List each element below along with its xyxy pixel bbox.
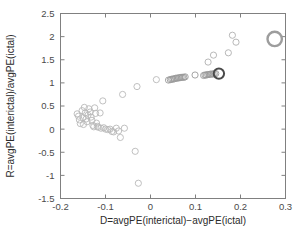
axes-frame <box>61 14 286 199</box>
scatter-plot-figure: -0.2-0.100.10.20.3 -1.5-1-0.500.511.522.… <box>0 0 307 240</box>
data-point <box>153 77 159 83</box>
data-point <box>229 32 235 38</box>
data-point <box>132 148 138 154</box>
data-point <box>120 91 126 97</box>
data-point <box>97 110 103 116</box>
x-tick-label: 0.1 <box>189 201 202 212</box>
axes-box <box>61 14 286 199</box>
x-tick-label: 0 <box>148 201 153 212</box>
series-transition-chain <box>165 71 218 84</box>
data-points-layer <box>74 32 282 187</box>
data-point <box>225 50 231 56</box>
plot-canvas: -0.2-0.100.10.20.3 -1.5-1-0.500.511.522.… <box>0 0 307 240</box>
data-point <box>268 32 282 46</box>
x-tick-label: -0.2 <box>52 201 68 212</box>
series-upper-right-outliers <box>205 32 239 65</box>
x-tick-label: 0.2 <box>234 201 247 212</box>
y-tick-label: 2 <box>49 31 54 42</box>
x-tick-label: -0.1 <box>97 201 113 212</box>
data-point <box>100 98 106 104</box>
y-axis-ticks: -1.5-1-0.500.511.522.5 <box>38 8 285 204</box>
data-point <box>233 39 239 45</box>
data-point <box>210 52 216 58</box>
y-tick-label: -1 <box>46 170 54 181</box>
data-point <box>134 83 140 89</box>
x-axis-title: D=avgPE(interictal)−avgPE(ictal) <box>100 215 246 226</box>
y-tick-label: 0 <box>49 124 54 135</box>
data-point <box>117 134 123 140</box>
series-highlighted-extreme-marker <box>268 32 282 46</box>
series-interictal-cluster <box>74 77 159 187</box>
y-tick-label: -0.5 <box>38 147 54 158</box>
y-tick-label: 0.5 <box>41 100 54 111</box>
y-tick-label: 1.5 <box>41 54 54 65</box>
data-point <box>205 59 211 65</box>
y-axis-title: R=avgPE(interictal)/avgPE(ictal) <box>5 34 16 177</box>
data-point <box>135 180 141 186</box>
data-point <box>192 72 198 78</box>
y-tick-label: -1.5 <box>38 193 54 204</box>
x-tick-label: 0.3 <box>279 201 292 212</box>
data-point <box>121 125 127 131</box>
y-tick-label: 2.5 <box>41 8 54 19</box>
y-tick-label: 1 <box>49 77 54 88</box>
